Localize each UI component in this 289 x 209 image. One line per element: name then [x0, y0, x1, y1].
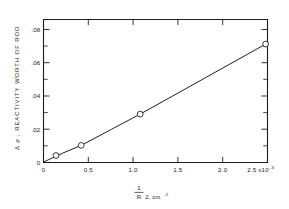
y-tick-label-0: .08 — [31, 26, 41, 33]
y-tick-label-2: .04 — [31, 92, 41, 99]
x-axis-exponent: -3 — [270, 165, 274, 170]
x-tick-label-3: 1.5 — [173, 166, 183, 173]
y-axis-title-group: Δ ρ , REACTIVITY WORTH OF ROD — [14, 26, 20, 150]
y-tick-label-1: .06 — [31, 59, 41, 66]
data-point-2 — [78, 143, 84, 149]
reactivity-worth-chart: .08 .06 .04 .02 0 0 0.5 1.0 1.5 2.0 2.5 … — [0, 0, 289, 209]
x-tick-label-5: 2.5 x10 — [247, 166, 269, 173]
data-point-1 — [53, 153, 59, 159]
x-tick-label-4: 2.0 — [218, 166, 228, 173]
x-tick-label-2: 1.0 — [128, 166, 138, 173]
y-tick-label-3: .02 — [31, 126, 41, 133]
x-tick-label-1: 0.5 — [84, 166, 94, 173]
x-axis-title-units: , cm — [149, 194, 160, 200]
x-tick-label-0: 0 — [42, 166, 46, 173]
y-axis-title: Δ ρ , REACTIVITY WORTH OF ROD — [14, 26, 20, 150]
y-tick-label-zero: 0 — [37, 159, 41, 166]
x-axis-title-denominator: R — [137, 194, 142, 200]
data-point-3 — [137, 111, 143, 117]
data-point-4 — [263, 41, 269, 47]
x-axis-title-units-exponent: -2 — [164, 192, 168, 197]
